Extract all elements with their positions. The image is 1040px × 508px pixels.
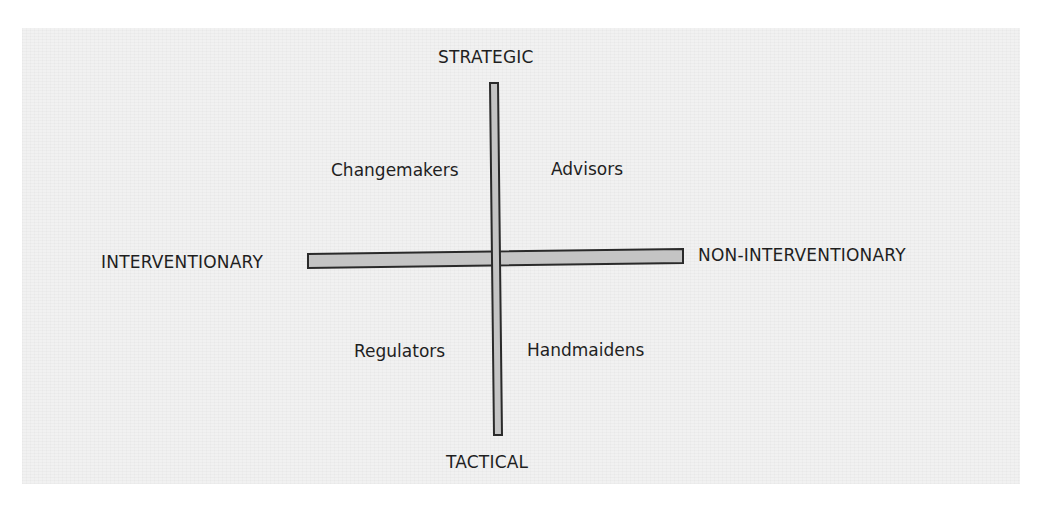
quadrant-regulators: Regulators — [354, 341, 445, 361]
axis-label-interventionary: INTERVENTIONARY — [101, 252, 263, 272]
quadrant-advisors: Advisors — [551, 159, 623, 179]
quadrant-changemakers: Changemakers — [331, 160, 459, 180]
quadrant-handmaidens: Handmaidens — [527, 340, 644, 360]
axis-label-strategic: STRATEGIC — [438, 47, 534, 67]
vertical-axis-bar — [490, 83, 502, 435]
axis-label-non-interventionary: NON-INTERVENTIONARY — [698, 245, 906, 265]
axis-label-tactical: TACTICAL — [446, 452, 528, 472]
